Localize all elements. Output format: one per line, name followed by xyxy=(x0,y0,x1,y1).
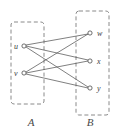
edge-v-x xyxy=(26,61,88,73)
graph-canvas: u v w x y A B xyxy=(0,0,116,134)
vertex-label-w: w xyxy=(97,29,103,38)
vertex-node-w xyxy=(88,31,92,35)
vertex-label-u: u xyxy=(14,42,18,51)
vertex-node-y xyxy=(88,86,92,90)
vertex-label-y: y xyxy=(96,84,101,93)
set-box-B xyxy=(76,11,109,115)
vertex-label-v: v xyxy=(14,69,18,78)
set-label-A: A xyxy=(27,116,35,128)
vertex-node-x xyxy=(88,59,92,63)
edge-group xyxy=(26,34,88,88)
bipartite-graph-figure: u v w x y A B xyxy=(0,0,116,134)
vertex-node-u xyxy=(22,44,26,48)
vertex-label-x: x xyxy=(96,57,101,66)
set-box-A xyxy=(11,22,44,104)
vertex-node-v xyxy=(22,71,26,75)
set-label-B: B xyxy=(87,116,94,128)
